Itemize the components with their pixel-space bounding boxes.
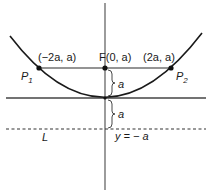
label-focus: F(0, a) (99, 51, 131, 63)
point-focus (102, 65, 107, 70)
label-directrix-equation: y = − a (114, 130, 149, 142)
label-right-point-coords: (2a, a) (143, 51, 175, 63)
label-left-point-coords: (−2a, a) (38, 51, 76, 63)
brace-lower (108, 100, 115, 128)
label-directrix-name: L (42, 131, 48, 143)
parabola-diagram: (−2a, a) F(0, a) (2a, a) P1 P2 a a y = −… (0, 0, 206, 193)
point-p2 (168, 65, 173, 70)
brace-upper (108, 70, 115, 96)
point-vertex (103, 96, 106, 99)
label-p1: P1 (21, 70, 33, 85)
point-p1 (36, 65, 41, 70)
parabola-curve (10, 33, 202, 97)
label-distance-lower: a (118, 108, 124, 120)
label-p2: P2 (176, 70, 188, 85)
label-distance-upper: a (118, 78, 124, 90)
